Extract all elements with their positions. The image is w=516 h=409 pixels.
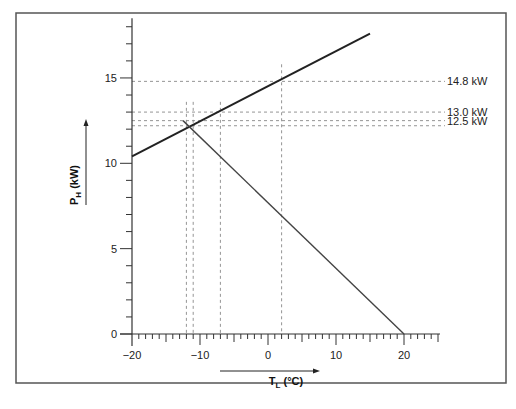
x-tick-label: 20 bbox=[398, 349, 410, 361]
chart: 14.8 kW13.0 kW12.5 kW 051015−20−1001020 … bbox=[0, 0, 516, 409]
x-tick-label: −20 bbox=[123, 349, 142, 361]
x-axis-title: TL (°C) bbox=[269, 375, 304, 390]
y-tick-label: 5 bbox=[111, 243, 117, 255]
x-tick-label: −10 bbox=[191, 349, 210, 361]
x-tick-label: 10 bbox=[330, 349, 342, 361]
x-tick-label: 0 bbox=[265, 349, 271, 361]
x-axis-arrow-icon bbox=[220, 369, 320, 374]
chart-frame bbox=[16, 13, 506, 383]
reference-lines: 14.8 kW13.0 kW12.5 kW bbox=[132, 64, 488, 334]
heating-capacity-line bbox=[132, 34, 370, 157]
y-tick-label: 15 bbox=[105, 72, 117, 84]
axes: 051015−20−1001020 bbox=[105, 18, 440, 361]
y-tick-label: 0 bbox=[111, 328, 117, 340]
y-axis-arrow-icon bbox=[84, 119, 89, 205]
svg-text:PH (kW): PH (kW) bbox=[68, 165, 83, 205]
y-tick-label: 10 bbox=[105, 157, 117, 169]
y-axis-title: PH (kW) bbox=[68, 165, 83, 205]
reference-value-label: 12.5 kW bbox=[447, 115, 488, 127]
svg-text:TL (°C): TL (°C) bbox=[269, 375, 304, 390]
heat-demand-line bbox=[183, 121, 404, 334]
data-series bbox=[132, 34, 404, 334]
reference-value-label: 14.8 kW bbox=[447, 75, 488, 87]
